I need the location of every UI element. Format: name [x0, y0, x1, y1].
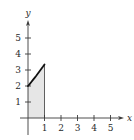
x-tick-label: 1 [42, 123, 48, 133]
area-under-curve [28, 64, 45, 118]
x-axis-label: x [127, 113, 132, 123]
shaded-region [28, 64, 45, 118]
x-tick-label: 2 [58, 123, 64, 133]
y-tick-label: 1 [15, 97, 21, 107]
y-axis-label: y [25, 8, 32, 18]
y-tick-label: 5 [15, 33, 21, 43]
x-tick-label: 3 [75, 123, 81, 133]
y-tick-label: 2 [15, 81, 21, 91]
y-tick-label: 4 [15, 49, 21, 59]
x-tick-label: 5 [108, 123, 114, 133]
x-tick-label: 4 [91, 123, 97, 133]
chart: 12345 x 12345 y [0, 0, 134, 140]
y-tick-label: 3 [15, 65, 21, 75]
